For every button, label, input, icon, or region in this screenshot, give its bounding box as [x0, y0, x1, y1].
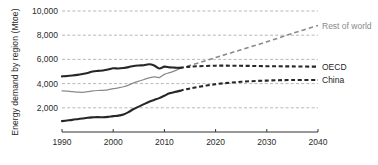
series-line-historical: [62, 91, 180, 121]
y-axis-tick-label: 6,000: [37, 54, 58, 64]
series-line-historical: [62, 68, 180, 92]
series-label-china: China: [322, 75, 344, 85]
y-axis-tick-label: 4,000: [37, 79, 58, 89]
x-axis-tick-label: 2020: [206, 137, 225, 147]
y-axis-tick-label: 8,000: [37, 30, 58, 40]
axis-layer: [62, 129, 318, 132]
gridlines: [62, 11, 318, 108]
series-line-historical: [62, 64, 180, 76]
x-axis-tick-label: 2040: [309, 137, 328, 147]
x-axis-tick-label: 2010: [155, 137, 174, 147]
series-line-projection: [180, 80, 318, 91]
series-label-oecd: OECD: [322, 62, 347, 72]
plot-area: 2,0004,0006,0008,00010,000 1990200020102…: [62, 11, 318, 132]
series-line-projection: [180, 66, 318, 68]
series-label-rest-of-world: Rest of world: [322, 21, 372, 31]
y-axis-tick-label: 2,000: [37, 103, 58, 113]
x-axis-tick-label: 1990: [53, 137, 72, 147]
series-oecd: [62, 64, 318, 76]
chart-container: Energy demand by region (Mtoe) 2,0004,00…: [0, 0, 378, 165]
series-layer: [62, 26, 318, 122]
chart-svg: [62, 11, 318, 132]
x-axis-tick-label: 2030: [257, 137, 276, 147]
series-china: [62, 80, 318, 121]
y-axis-title: Energy demand by region (Mtoe): [10, 0, 24, 146]
series-line-projection: [180, 26, 318, 69]
y-axis-tick-label: 10,000: [32, 6, 58, 16]
x-axis-tick-label: 2000: [104, 137, 123, 147]
